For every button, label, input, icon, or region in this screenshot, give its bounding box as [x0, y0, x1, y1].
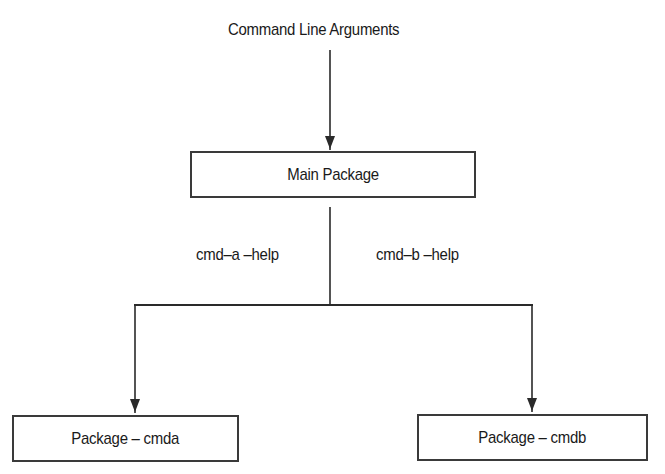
- package-cmdb-box: Package – cmdb: [417, 414, 648, 461]
- arrowhead-icon: [130, 399, 140, 412]
- package-cmdb-label: Package – cmdb: [479, 428, 587, 448]
- main-package-label: Main Package: [287, 165, 379, 185]
- arrowhead-icon: [325, 136, 335, 149]
- branch-label-cmd-b: cmd–b –help: [376, 245, 459, 265]
- branch-label-cmd-a: cmd–a –help: [196, 245, 279, 265]
- package-cmda-label: Package – cmda: [72, 429, 180, 449]
- main-package-box: Main Package: [190, 151, 476, 198]
- diagram-title: Command Line Arguments: [228, 20, 399, 40]
- connector-lines: [0, 0, 665, 474]
- arrowhead-icon: [527, 398, 537, 411]
- package-cmda-box: Package – cmda: [12, 415, 239, 462]
